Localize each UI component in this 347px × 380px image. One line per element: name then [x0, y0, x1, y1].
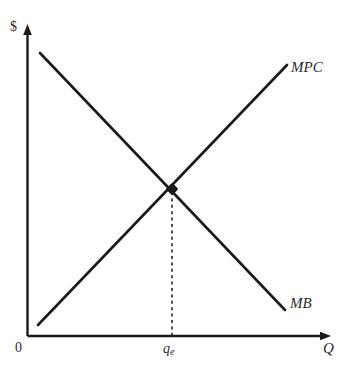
x-axis-label: Q — [323, 341, 334, 356]
economics-diagram-figure: $ Q 0 qe MPC MB — [0, 0, 347, 380]
equilibrium-tick-base: q — [163, 341, 170, 356]
equilibrium-tick-subscript: e — [170, 346, 174, 357]
marginal-benefit-curve — [40, 53, 285, 310]
y-axis-arrow-icon — [23, 24, 32, 35]
x-axis-arrow-icon — [320, 332, 331, 341]
diagram-canvas — [0, 0, 347, 380]
y-axis-label: $ — [10, 20, 17, 34]
equilibrium-quantity-tick-label: qe — [163, 342, 174, 357]
equilibrium-point-dot — [166, 183, 179, 196]
marginal-private-cost-curve — [38, 65, 287, 325]
marginal-private-cost-curve-label: MPC — [291, 60, 323, 75]
marginal-benefit-curve-label: MB — [290, 296, 312, 311]
origin-label: 0 — [15, 341, 22, 355]
